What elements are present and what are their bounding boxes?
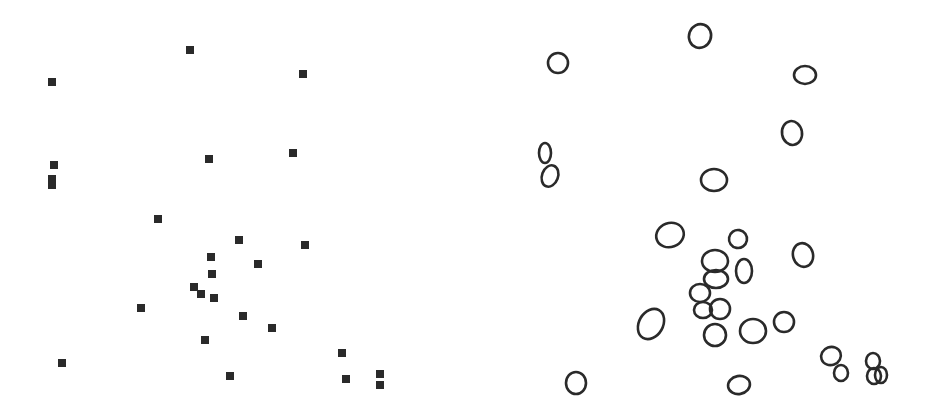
marker-dot <box>58 359 66 367</box>
marker-dot <box>376 381 384 389</box>
cell-outline <box>539 163 562 189</box>
cell-outline <box>780 119 804 146</box>
cell-outline <box>539 143 551 163</box>
marker-dot <box>207 253 215 261</box>
marker-dot <box>235 236 243 244</box>
cell-outline <box>728 229 749 250</box>
marker-dots-plot <box>0 0 466 415</box>
marker-dot <box>201 336 209 344</box>
cell-outline <box>834 365 848 381</box>
cell-outline <box>701 169 727 191</box>
cell-outline <box>702 250 728 272</box>
cell-outlines-plot <box>466 0 932 415</box>
cell-outline <box>633 304 670 344</box>
marker-dot <box>210 294 218 302</box>
marker-dot <box>205 155 213 163</box>
cell-outline <box>690 284 710 302</box>
marker-dots-panel <box>0 0 466 415</box>
cell-outline <box>790 241 816 269</box>
marker-dot <box>208 270 216 278</box>
marker-dot <box>48 181 56 189</box>
cell-outline <box>736 259 752 283</box>
marker-dot <box>50 161 58 169</box>
cell-outline <box>653 219 688 251</box>
cell-outline <box>727 374 752 396</box>
marker-dot <box>197 290 205 298</box>
marker-dot <box>338 349 346 357</box>
marker-dot <box>301 241 309 249</box>
cell-outline <box>548 53 568 73</box>
marker-dot <box>186 46 194 54</box>
cell-outlines-panel <box>466 0 932 415</box>
marker-dot <box>190 283 198 291</box>
cell-outline <box>566 372 586 394</box>
marker-dot <box>289 149 297 157</box>
cell-outline <box>794 66 816 84</box>
marker-dot <box>299 70 307 78</box>
cell-outline <box>686 21 715 51</box>
cell-outline <box>740 319 766 343</box>
marker-dot <box>137 304 145 312</box>
marker-dot <box>239 312 247 320</box>
marker-dot <box>376 370 384 378</box>
marker-dot <box>268 324 276 332</box>
marker-dot <box>254 260 262 268</box>
cell-outline <box>774 312 794 332</box>
cell-outline <box>704 324 726 346</box>
marker-dot <box>226 372 234 380</box>
marker-dot <box>154 215 162 223</box>
marker-dot <box>48 78 56 86</box>
marker-dot <box>342 375 350 383</box>
